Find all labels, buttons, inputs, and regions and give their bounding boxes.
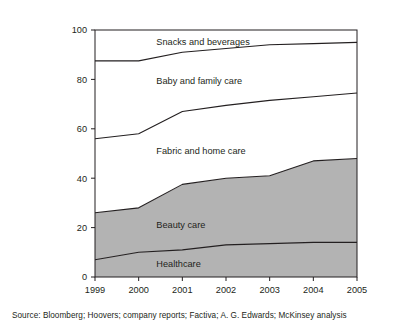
chart-plot-area: 020406080100 199920002001200220032004200… bbox=[0, 0, 393, 300]
x-tick-label: 2004 bbox=[303, 285, 323, 295]
x-tick-label: 2002 bbox=[216, 285, 236, 295]
stacked-area-chart: 020406080100 199920002001200220032004200… bbox=[0, 0, 393, 300]
x-tick-label: 2001 bbox=[172, 285, 192, 295]
y-tick-label: 40 bbox=[77, 174, 87, 184]
y-tick-label: 100 bbox=[72, 25, 87, 35]
y-tick-label: 0 bbox=[82, 272, 87, 282]
x-axis: 1999200020012002200320042005 bbox=[85, 277, 367, 295]
source-note: Source: Bloomberg; Hoovers; company repo… bbox=[12, 311, 347, 320]
y-tick-label: 80 bbox=[77, 75, 87, 85]
series-label-healthcare: Healthcare bbox=[156, 259, 200, 269]
series-label-fabric-and-home-care: Fabric and home care bbox=[156, 146, 245, 156]
y-tick-label: 20 bbox=[77, 223, 87, 233]
x-tick-label: 2003 bbox=[259, 285, 279, 295]
y-axis: 020406080100 bbox=[72, 25, 95, 282]
chart-figure: 020406080100 199920002001200220032004200… bbox=[0, 0, 393, 334]
y-tick-label: 60 bbox=[77, 124, 87, 134]
series-label-snacks-and-beverages: Snacks and beverages bbox=[156, 37, 250, 47]
x-tick-label: 2005 bbox=[347, 285, 367, 295]
series-label-baby-and-family-care: Baby and family care bbox=[156, 76, 242, 86]
x-tick-label: 1999 bbox=[85, 285, 105, 295]
x-tick-label: 2000 bbox=[128, 285, 148, 295]
series-label-beauty-care: Beauty care bbox=[156, 220, 205, 230]
